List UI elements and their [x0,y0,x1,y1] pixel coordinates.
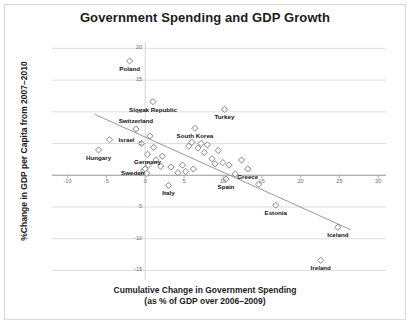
data-point-marker[interactable] [150,99,156,105]
data-point-label: Ireland [311,264,331,271]
data-point-label: Italy [162,189,174,196]
x-axis-tick-label: 30 [372,178,384,184]
data-point-marker[interactable] [209,156,215,162]
data-point-marker[interactable] [192,125,198,131]
x-axis-tick-label: -5 [100,178,112,184]
data-point-marker[interactable] [127,58,133,64]
y-axis-title: %Change in GDP per Capita from 2007–2010 [19,1,29,301]
data-point-marker[interactable] [212,161,218,167]
y-axis-tick-label: -15 [129,266,142,272]
plot-area: -10-505101520253020151050-5-10-15PolandS… [52,42,386,280]
x-axis-title: Cumulative Change in Government Spending… [0,285,410,307]
data-point-label: Germany [134,158,161,165]
data-point-label: Slovak Republic [129,106,177,113]
data-point-marker[interactable] [190,166,196,172]
data-point-label: South Korea [177,132,214,139]
data-point-marker[interactable] [151,144,157,150]
scatter-plot-svg [52,42,386,280]
data-point-marker[interactable] [133,126,139,132]
data-point-label: Iceland [327,231,348,238]
data-point-label: Switzerland [119,117,153,124]
chart-figure: Government Spending and GDP Growth %Chan… [0,0,410,324]
data-point-marker[interactable] [238,157,244,163]
chart-title: Government Spending and GDP Growth [0,10,410,25]
data-point-marker[interactable] [201,149,207,155]
x-axis-tick-label: 5 [178,178,190,184]
y-axis-tick-label: -10 [129,235,142,241]
y-axis-tick-label: 15 [129,76,142,82]
data-point-label: Israel [118,136,134,143]
data-point-marker[interactable] [106,137,112,143]
data-point-marker[interactable] [226,162,232,168]
data-point-label: Greece [237,173,258,180]
data-point-marker[interactable] [204,142,210,148]
data-point-marker[interactable] [96,147,102,153]
data-point-marker[interactable] [215,147,221,153]
data-point-label: Poland [119,65,140,72]
data-point-label: Hungary [86,154,111,161]
data-point-label: Sweden [121,169,144,176]
y-axis-tick-label: -5 [129,203,142,209]
data-point-marker[interactable] [179,162,185,168]
data-point-marker[interactable] [318,257,324,263]
x-axis-tick-label: -10 [62,178,74,184]
x-axis-tick-label: 20 [295,178,307,184]
data-point-marker[interactable] [168,164,174,170]
data-point-marker[interactable] [220,159,226,165]
x-axis-tick-label: 0 [139,178,151,184]
y-axis-tick-label: 20 [129,44,142,50]
data-point-marker[interactable] [183,168,189,174]
data-point-label: Turkey [215,113,235,120]
data-point-marker[interactable] [245,166,251,172]
x-axis-title-line2: (as % of GDP over 2006–2009) [144,296,265,306]
y-axis-title-container: %Change in GDP per Capita from 2007–2010 [24,42,38,280]
data-point-label: Spain [218,183,235,190]
data-point-marker[interactable] [165,182,171,188]
data-point-label: Estonia [265,209,287,216]
x-axis-tick-label: 25 [333,178,345,184]
x-axis-title-line1: Cumulative Change in Government Spending [114,285,297,295]
